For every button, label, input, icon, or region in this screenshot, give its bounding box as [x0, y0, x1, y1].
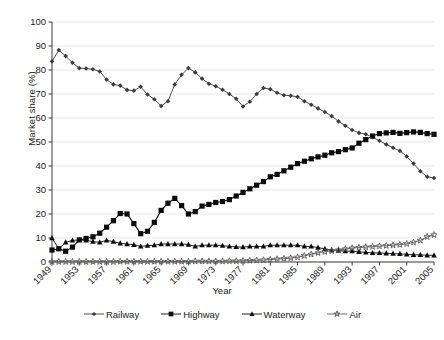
- x-tick-label-1977: 1977: [222, 264, 245, 287]
- marker-square: [70, 245, 75, 250]
- marker-diamond: [220, 87, 225, 92]
- legend-item-air[interactable]: Air: [326, 308, 361, 320]
- y-tick-label-30: 30: [35, 184, 46, 195]
- marker-square: [240, 190, 245, 195]
- marker-diamond: [391, 145, 396, 150]
- marker-square: [111, 218, 116, 223]
- series-line-railway: [52, 50, 434, 178]
- marker-square: [118, 211, 123, 216]
- marker-square: [281, 168, 286, 173]
- marker-diamond: [92, 312, 96, 316]
- x-tick-label-1997: 1997: [358, 264, 381, 287]
- marker-square: [343, 147, 348, 152]
- marker-diamond: [118, 83, 123, 88]
- marker-square: [261, 179, 266, 184]
- marker-square: [418, 130, 423, 135]
- x-tick-label-2001: 2001: [385, 264, 408, 287]
- marker-diamond: [132, 88, 137, 93]
- marker-square: [179, 203, 184, 208]
- marker-diamond: [295, 95, 300, 100]
- marker-square: [336, 149, 341, 154]
- marker-square: [431, 132, 436, 137]
- marker-diamond: [357, 131, 362, 136]
- marker-square: [124, 211, 129, 216]
- marker-square: [131, 221, 136, 226]
- market-share-line-chart: Market share (%) 01020304050607080901001…: [0, 0, 444, 340]
- marker-diamond: [432, 176, 437, 181]
- marker-square: [138, 231, 143, 236]
- marker-square: [329, 150, 334, 155]
- marker-diamond: [384, 142, 389, 147]
- y-tick-label-10: 10: [35, 232, 46, 243]
- series-railway: [50, 48, 437, 181]
- legend-label-waterway: Waterway: [264, 309, 306, 320]
- marker-star: [431, 232, 437, 238]
- marker-diamond: [350, 128, 355, 133]
- marker-square: [104, 225, 109, 230]
- marker-square: [186, 211, 191, 216]
- x-tick-label-1973: 1973: [194, 264, 217, 287]
- marker-diamond: [343, 123, 348, 128]
- x-tick-label-1949: 1949: [31, 264, 54, 287]
- legend-marker-air: [326, 308, 348, 320]
- chart-legend: RailwayHighwayWaterwayAir: [0, 308, 444, 320]
- marker-square: [227, 197, 232, 202]
- legend-item-waterway[interactable]: Waterway: [241, 308, 306, 320]
- legend-item-highway[interactable]: Highway: [160, 308, 219, 320]
- marker-square: [411, 129, 416, 134]
- legend-marker-railway: [83, 308, 105, 320]
- marker-diamond: [302, 99, 307, 104]
- marker-square: [234, 193, 239, 198]
- marker-square: [390, 130, 395, 135]
- marker-square: [206, 202, 211, 207]
- legend-marker-highway: [160, 308, 182, 320]
- marker-square: [322, 153, 327, 158]
- marker-square: [315, 154, 320, 159]
- x-tick-label-1985: 1985: [276, 264, 299, 287]
- legend-label-air: Air: [349, 309, 361, 320]
- y-tick-label-90: 90: [35, 40, 46, 51]
- y-tick-label-80: 80: [35, 64, 46, 75]
- marker-square: [145, 229, 150, 234]
- marker-diamond: [323, 110, 328, 115]
- marker-square: [356, 141, 361, 146]
- x-tick-label-2005: 2005: [413, 264, 436, 287]
- marker-square: [63, 249, 68, 254]
- marker-diamond: [213, 84, 218, 89]
- marker-square: [247, 186, 252, 191]
- x-tick-label-1981: 1981: [249, 264, 272, 287]
- x-tick-label-1989: 1989: [304, 264, 327, 287]
- marker-diamond: [268, 87, 273, 92]
- marker-square: [268, 174, 273, 179]
- marker-square: [384, 130, 389, 135]
- marker-square: [295, 161, 300, 166]
- legend-marker-waterway: [241, 308, 263, 320]
- legend-label-railway: Railway: [106, 309, 139, 320]
- x-tick-label-1993: 1993: [331, 264, 354, 287]
- marker-square: [97, 231, 102, 236]
- marker-square: [199, 203, 204, 208]
- x-axis-title: Year: [0, 285, 444, 296]
- marker-square: [220, 199, 225, 204]
- x-tick-label-1969: 1969: [167, 264, 190, 287]
- y-tick-label-50: 50: [35, 136, 46, 147]
- marker-square: [404, 130, 409, 135]
- marker-square: [370, 133, 375, 138]
- marker-square: [254, 183, 259, 188]
- marker-diamond: [91, 67, 96, 72]
- y-tick-label-60: 60: [35, 112, 46, 123]
- legend-item-railway[interactable]: Railway: [83, 308, 139, 320]
- y-tick-label-40: 40: [35, 160, 46, 171]
- x-tick-label-1965: 1965: [140, 264, 163, 287]
- marker-square: [309, 156, 314, 161]
- y-tick-label-70: 70: [35, 88, 46, 99]
- marker-diamond: [316, 106, 321, 111]
- marker-diamond: [125, 88, 130, 93]
- series-highway: [49, 129, 436, 253]
- marker-square: [193, 209, 198, 214]
- legend-label-highway: Highway: [183, 309, 219, 320]
- marker-square: [288, 165, 293, 170]
- marker-square: [165, 201, 170, 206]
- marker-square: [350, 145, 355, 150]
- marker-diamond: [363, 132, 368, 137]
